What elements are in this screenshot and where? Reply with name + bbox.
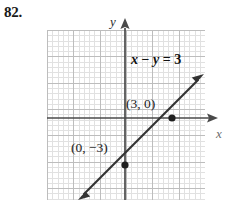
point-label-0-neg3: (0, −3) bbox=[71, 140, 108, 156]
y-axis-label: y bbox=[110, 14, 116, 30]
point-label-3-0: (3, 0) bbox=[126, 96, 155, 112]
x-axis-label: x bbox=[216, 126, 222, 142]
x-axis bbox=[47, 113, 218, 122]
graph-canvas bbox=[0, 0, 228, 208]
point-marker-3-0 bbox=[168, 114, 175, 121]
plotted-line bbox=[78, 74, 204, 200]
equation-var-x: x bbox=[131, 52, 138, 67]
equation-operator: − bbox=[138, 52, 153, 67]
point-marker-0-neg3 bbox=[121, 161, 128, 168]
equation-equals-value: = 3 bbox=[159, 52, 181, 67]
graph-figure: 82. y x (3, 0) (0, −3) x − y bbox=[0, 0, 228, 208]
equation-label: x − y = 3 bbox=[131, 52, 181, 68]
